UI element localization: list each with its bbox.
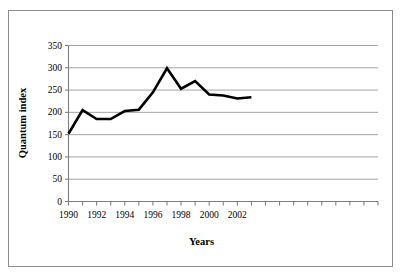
x-axis-title: Years [0, 236, 403, 247]
data-series-line [69, 68, 252, 134]
y-axis-tick-label: 100 [30, 152, 62, 162]
y-axis-tick-label: 50 [30, 174, 62, 184]
y-axis-title-container: Quantum index [14, 40, 30, 205]
x-axis-tick-label: 2002 [217, 210, 257, 220]
chart-figure: Quantum index Years 05010015020025030035… [0, 0, 403, 277]
y-axis-tick-label: 0 [30, 197, 62, 207]
y-axis-title: Quantum index [17, 87, 28, 157]
y-axis-tick-label: 350 [30, 41, 62, 51]
y-axis-tick-label: 250 [30, 85, 62, 95]
y-axis-tick-label: 150 [30, 130, 62, 140]
y-axis-tick-label: 200 [30, 107, 62, 117]
y-axis-tick-label: 300 [30, 63, 62, 73]
